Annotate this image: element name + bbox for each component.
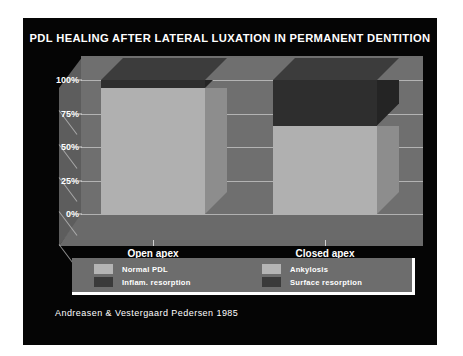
bar-segment-front: [101, 80, 205, 88]
legend-label: Surface resorption: [290, 278, 362, 287]
bar-segment[interactable]: [101, 80, 205, 88]
y-axis-tick-label: 75%: [35, 109, 79, 119]
y-axis-tick-label: 50%: [35, 142, 79, 152]
bar-segment-front: [273, 126, 377, 214]
legend-item[interactable]: Surface resorption: [262, 277, 362, 287]
bar-segment[interactable]: [273, 126, 377, 214]
y-axis-tick-label: 100%: [35, 75, 79, 85]
legend-swatch: [94, 264, 113, 274]
x-axis-tick-mark: [325, 240, 326, 246]
chart-legend: Normal PDLAnkylosisInflam. resorptionSur…: [72, 258, 415, 295]
y-axis-labels: 100%75%50%25%0%: [23, 56, 79, 256]
legend-item[interactable]: Normal PDL: [94, 264, 168, 274]
chart-slide: PDL HEALING AFTER LATERAL LUXATION IN PE…: [23, 18, 437, 345]
legend-item[interactable]: Ankylosis: [262, 264, 328, 274]
bar-segment-top: [101, 58, 227, 80]
x-axis-tick-mark: [153, 240, 154, 246]
bar-segment[interactable]: [273, 80, 377, 126]
bar-segment-top: [273, 58, 399, 80]
legend-swatch: [262, 264, 281, 274]
chart-title: PDL HEALING AFTER LATERAL LUXATION IN PE…: [23, 32, 437, 44]
plot-area: 100%75%50%25%0% Open apexClosed apex: [23, 56, 437, 256]
legend-swatch: [94, 277, 113, 287]
y-axis-tick-mark: [75, 214, 82, 215]
legend-label: Ankylosis: [290, 265, 328, 274]
bar-segment[interactable]: [101, 88, 205, 214]
bar-group[interactable]: [101, 80, 205, 214]
gridline: [81, 214, 423, 215]
legend-label: Normal PDL: [122, 265, 168, 274]
bar-segment-front: [273, 80, 377, 126]
y-axis-tick-mark: [75, 80, 82, 81]
attribution-text: Andreasen & Vestergaard Pedersen 1985: [55, 308, 238, 318]
y-axis-tick-label: 0%: [35, 209, 79, 219]
legend-swatch: [262, 277, 281, 287]
bar-segment-front: [101, 88, 205, 214]
legend-label: Inflam. resorption: [122, 278, 191, 287]
y-axis-tick-mark: [75, 180, 82, 181]
legend-item[interactable]: Inflam. resorption: [94, 277, 191, 287]
bar-segment-side: [205, 88, 227, 214]
y-axis-tick-mark: [75, 147, 82, 148]
y-axis-tick-mark: [75, 113, 82, 114]
chart-floor: [59, 214, 423, 246]
bar-group[interactable]: [273, 80, 377, 214]
y-axis-tick-label: 25%: [35, 176, 79, 186]
